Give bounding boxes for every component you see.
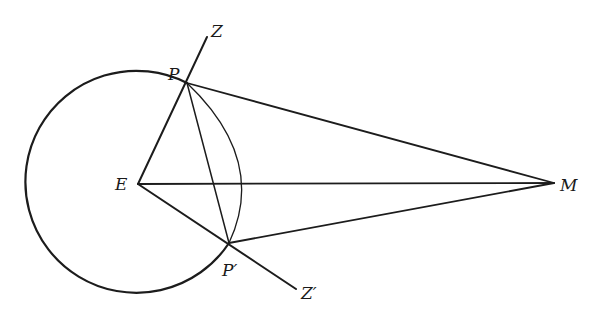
label-M: M <box>559 175 578 195</box>
geometry-diagram: Z P E M P′ Z′ <box>0 0 607 322</box>
chord-P-Pprime <box>187 83 229 243</box>
label-Z: Z <box>210 21 224 41</box>
line-E-Z <box>138 37 207 184</box>
label-E: E <box>114 174 128 194</box>
label-P: P <box>167 64 180 84</box>
line-P-M <box>187 83 554 183</box>
inner-arc <box>187 83 242 243</box>
label-Z-prime: Z′ <box>300 283 317 303</box>
line-Pprime-M <box>229 183 554 243</box>
label-P-prime: P′ <box>221 260 237 280</box>
line-E-M <box>138 183 554 184</box>
